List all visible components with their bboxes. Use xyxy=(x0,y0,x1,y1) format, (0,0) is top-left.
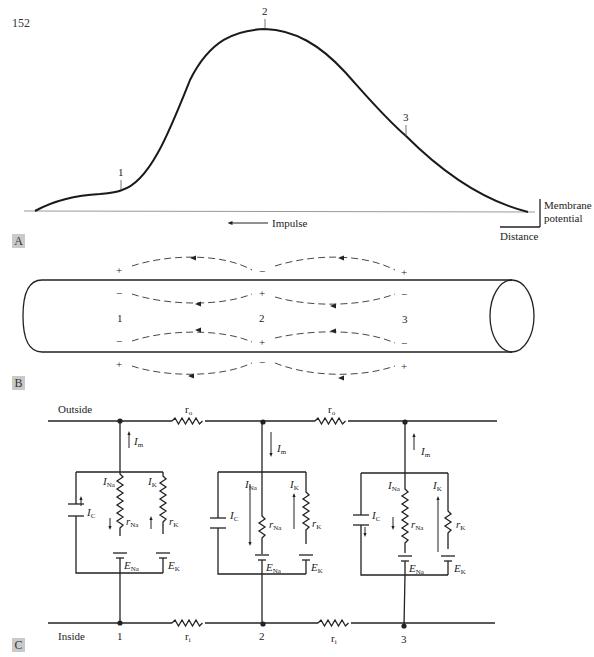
outer-sign-bottom-1: + xyxy=(116,358,122,370)
ENa-label-2: ENa xyxy=(265,561,282,575)
EK-label-1: EK xyxy=(167,559,180,573)
inner-sign-top-1: − xyxy=(116,287,122,299)
marker-1-label: 1 xyxy=(118,166,124,178)
rK-resistor-1 xyxy=(160,472,166,534)
impulse-label: Impulse xyxy=(272,217,308,229)
IK-label-2: IK xyxy=(289,478,299,492)
marker-3-label: 3 xyxy=(403,111,409,123)
distance-label: Distance xyxy=(500,230,539,242)
panel-b-axon-cylinder: + − + − + − 1 2 3 − + − + − + xyxy=(23,256,534,381)
inner-sign-bottom-3: − xyxy=(401,337,407,349)
ro-label-2: ro xyxy=(328,403,336,417)
rNa-resistor-3 xyxy=(402,473,408,553)
inside-label: Inside xyxy=(58,630,85,642)
panel-a-action-potential-plot: 1 2 3 Impulse Membrane potential Distanc… xyxy=(24,5,592,242)
membrane-potential-curve xyxy=(35,29,528,212)
IK-label-1: IK xyxy=(147,475,157,489)
ri-resistor-2 xyxy=(318,620,349,626)
ri-label-2: ri xyxy=(331,632,337,646)
rK-label-1: rK xyxy=(169,515,178,529)
membrane-unit-1 xyxy=(68,421,170,623)
membrane-label: Membrane xyxy=(544,199,592,211)
IK-label-3: IK xyxy=(432,479,442,493)
rNa-resistor-1 xyxy=(117,472,123,536)
INa-label-2: INa xyxy=(244,478,258,492)
rK-label-2: rK xyxy=(312,517,321,531)
rK-resistor-3 xyxy=(445,473,451,549)
ri-label-1: ri xyxy=(185,630,191,644)
marker-2-label: 2 xyxy=(262,5,268,17)
outer-sign-top-3: + xyxy=(401,266,407,278)
membrane-unit-3 xyxy=(353,422,455,626)
current-arrows xyxy=(81,432,438,552)
Im-label-2: Im xyxy=(276,442,287,456)
potential-label: potential xyxy=(544,212,583,224)
outer-sign-bottom-3: + xyxy=(401,360,407,372)
figure-canvas: 1 2 3 Impulse Membrane potential Distanc… xyxy=(0,0,594,657)
inner-sign-top-3: − xyxy=(401,288,407,300)
position-3-label: 3 xyxy=(402,313,408,325)
outer-sign-top-1: + xyxy=(116,264,122,276)
node-3-label: 3 xyxy=(401,633,407,645)
rK-label-3: rK xyxy=(456,518,465,532)
ro-resistor-1 xyxy=(172,418,203,424)
node-1-label: 1 xyxy=(117,630,123,642)
rNa-label-3: rNa xyxy=(411,518,424,532)
ENa-label-1: ENa xyxy=(123,559,140,573)
rNa-label-2: rNa xyxy=(269,518,282,532)
rK-resistor-2 xyxy=(303,472,309,544)
Im-label-1: Im xyxy=(133,435,144,449)
axon-body xyxy=(23,280,512,352)
IC-label-3: IC xyxy=(371,509,381,523)
position-2-label: 2 xyxy=(259,312,265,324)
EK-label-2: EK xyxy=(310,561,323,575)
inner-sign-top-2: + xyxy=(259,287,265,299)
IC-label-1: IC xyxy=(86,506,96,520)
outside-label: Outside xyxy=(58,403,92,415)
inner-sign-bottom-2: + xyxy=(259,336,265,348)
axon-end-cross-section xyxy=(490,280,534,352)
rNa-resistor-2 xyxy=(259,472,265,554)
membrane-unit-2 xyxy=(210,422,313,624)
outer-sign-bottom-2: − xyxy=(259,356,265,368)
Im-label-3: Im xyxy=(420,445,431,459)
current-direction-arrows xyxy=(188,256,344,381)
ro-resistor-2 xyxy=(315,418,346,424)
ENa-label-3: ENa xyxy=(408,562,425,576)
baseline xyxy=(24,211,535,212)
rNa-label-1: rNa xyxy=(126,515,139,529)
INa-label-3: INa xyxy=(387,479,401,493)
node-2-label: 2 xyxy=(259,630,265,642)
INa-label-1: INa xyxy=(102,475,116,489)
IC-label-2: IC xyxy=(229,509,239,523)
ri-resistor-1 xyxy=(172,620,203,626)
ro-label-1: ro xyxy=(185,403,193,417)
position-1-label: 1 xyxy=(117,312,123,324)
outer-sign-top-2: − xyxy=(259,265,265,277)
inner-sign-bottom-1: − xyxy=(116,335,122,347)
EK-label-3: EK xyxy=(453,562,466,576)
